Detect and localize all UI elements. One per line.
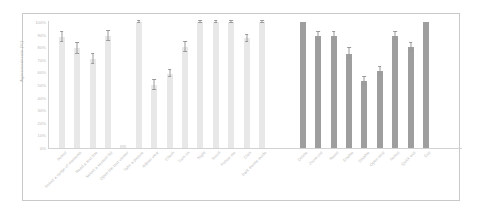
y-axis-ticks: 0%10%20%30%40%50%60%70%80%90%100% xyxy=(22,0,46,215)
error-bar-cap xyxy=(168,69,172,70)
bar xyxy=(361,81,367,148)
bar xyxy=(105,36,111,148)
error-bar-cap xyxy=(393,39,397,40)
bar xyxy=(74,48,80,148)
error-bar-cap xyxy=(214,20,218,21)
error-bar-cap xyxy=(260,22,264,23)
error-bar-cap xyxy=(316,39,320,40)
error-bar-cap xyxy=(316,31,320,32)
error-bar-cap xyxy=(362,76,366,77)
y-tick-label: 10% xyxy=(38,133,47,138)
y-tick-label: 50% xyxy=(38,83,47,88)
error-bar-cap xyxy=(229,22,233,23)
error-bar-cap xyxy=(106,30,110,31)
bar xyxy=(259,22,265,148)
bar xyxy=(90,59,96,148)
error-bar-cap xyxy=(198,22,202,23)
bar xyxy=(120,145,126,148)
bar xyxy=(228,22,234,148)
error-bar-cap xyxy=(393,31,397,32)
error-bar-cap xyxy=(152,79,156,80)
bar xyxy=(315,36,321,148)
error-bar-cap xyxy=(137,22,141,23)
error-bar-cap xyxy=(168,76,172,77)
error-bar-cap xyxy=(91,53,95,54)
bar xyxy=(300,22,306,148)
y-tick-label: 0% xyxy=(40,146,46,151)
error-bar-cap xyxy=(332,31,336,32)
bar xyxy=(59,37,65,148)
error-bar-cap xyxy=(60,41,64,42)
y-tick-label: 60% xyxy=(38,70,47,75)
bar xyxy=(244,38,250,148)
error-bar-cap xyxy=(75,42,79,43)
error-bar-cap xyxy=(137,20,141,21)
bar xyxy=(423,22,429,148)
bar xyxy=(151,85,157,148)
bar xyxy=(331,36,337,148)
error-bar-cap xyxy=(245,34,249,35)
figure-container: Agreement rate (%) 0%10%20%30%40%50%60%7… xyxy=(0,0,483,215)
error-bar-cap xyxy=(214,22,218,23)
y-tick-label: 70% xyxy=(38,57,47,62)
bar xyxy=(392,36,398,148)
error-bar-cap xyxy=(347,47,351,48)
y-tick-label: 30% xyxy=(38,108,47,113)
y-tick-label: 100% xyxy=(35,20,46,25)
error-bar-cap xyxy=(198,20,202,21)
error-bar-cap xyxy=(347,58,351,59)
error-bar-cap xyxy=(409,42,413,43)
bar xyxy=(197,22,203,148)
error-bar-cap xyxy=(229,20,233,21)
plot-area xyxy=(48,22,462,148)
bar xyxy=(136,22,142,148)
error-bar-cap xyxy=(378,66,382,67)
bar xyxy=(182,47,188,148)
error-bar-cap xyxy=(378,74,382,75)
bar xyxy=(377,71,383,148)
error-bar-cap xyxy=(362,84,366,85)
error-bar-cap xyxy=(106,40,110,41)
bar xyxy=(408,47,414,148)
error-bar-cap xyxy=(183,41,187,42)
error-bar-cap xyxy=(409,50,413,51)
bar xyxy=(167,74,173,148)
y-tick-label: 90% xyxy=(38,32,47,37)
error-bar-cap xyxy=(60,31,64,32)
error-bar-cap xyxy=(183,51,187,52)
x-axis-line xyxy=(48,148,462,149)
y-tick-label: 40% xyxy=(38,95,47,100)
error-bar-cap xyxy=(91,63,95,64)
y-tick-label: 20% xyxy=(38,120,47,125)
error-bar-cap xyxy=(260,20,264,21)
bar xyxy=(346,54,352,149)
error-bar-cap xyxy=(245,41,249,42)
error-bar-cap xyxy=(152,89,156,90)
bar xyxy=(213,22,219,148)
error-bar-cap xyxy=(332,39,336,40)
error-bar-cap xyxy=(75,53,79,54)
y-tick-label: 80% xyxy=(38,45,47,50)
